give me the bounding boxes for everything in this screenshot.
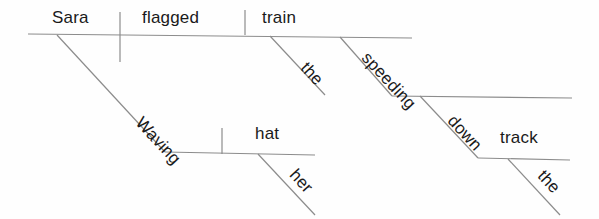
main-baseline <box>28 34 412 38</box>
word-subject: Sara <box>52 8 89 28</box>
prep-object-track-line <box>478 158 570 160</box>
word-direct-object: train <box>262 8 296 28</box>
participle-speeding-base <box>392 96 572 98</box>
word-prep-object: track <box>500 128 538 148</box>
sentence-diagram: Sara flagged train the speeding down tra… <box>0 0 599 219</box>
word-verb: flagged <box>142 8 199 28</box>
word-participle-object: hat <box>255 124 279 144</box>
participle-waving-base <box>165 152 315 155</box>
